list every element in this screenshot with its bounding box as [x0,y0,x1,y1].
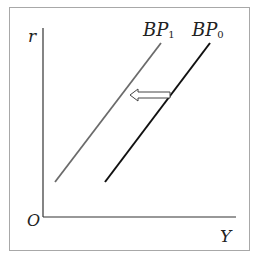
frame [10,8,250,251]
y-axis-label: r [28,26,37,46]
origin-label: O [27,211,40,230]
x-axis-label: Y [220,226,233,246]
bp-shift-diagram: r O Y BP1 BP0 [0,0,258,261]
